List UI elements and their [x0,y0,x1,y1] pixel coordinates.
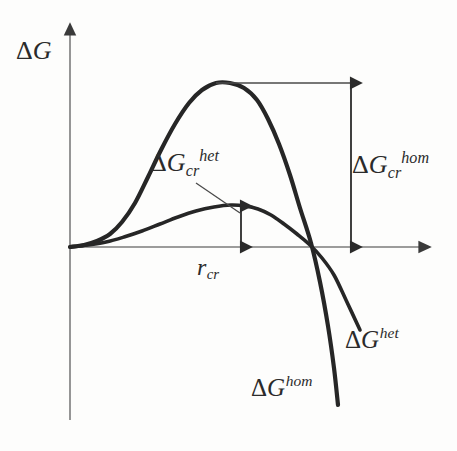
label-delta-g-cr-hom: ΔGcrhom [352,152,428,178]
label-delta-g-het: ΔGhet [345,327,398,352]
label-r-cr: rcr [197,255,219,279]
curves-group [70,82,360,405]
annotations-group [196,83,357,247]
label-delta-g-cr-het: ΔGcrhet [150,150,218,176]
y-axis-label: ΔG [16,38,52,64]
nucleation-free-energy-figure: ΔG ΔGcrhet ΔGcrhom rcr ΔGhet ΔGhom [0,0,457,451]
label-delta-g-hom: ΔGhom [251,375,312,400]
diagram-canvas [0,0,457,451]
axes-group [70,34,420,420]
curve-delta-g-hom [70,82,338,405]
